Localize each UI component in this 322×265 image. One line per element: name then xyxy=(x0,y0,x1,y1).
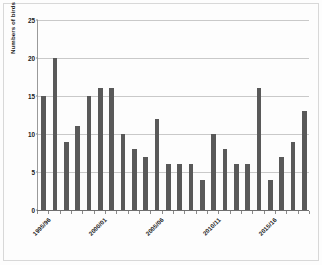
bar xyxy=(291,142,296,210)
x-tick-mark xyxy=(309,211,310,214)
bar xyxy=(302,111,307,210)
bar xyxy=(109,88,114,210)
bar xyxy=(98,88,103,210)
plot-area: 0510152025 xyxy=(37,20,309,210)
bar xyxy=(177,164,182,210)
x-tick-mark xyxy=(230,211,231,214)
x-tick-mark xyxy=(48,211,49,214)
bar xyxy=(189,164,194,210)
y-axis-title: Numbers of birds xyxy=(9,0,16,78)
x-tick-label: 2010/11 xyxy=(201,216,222,237)
x-tick-label: 2000/01 xyxy=(87,216,108,237)
bar xyxy=(87,96,92,210)
bar xyxy=(53,58,58,210)
x-tick-label: 2015/16 xyxy=(257,216,278,237)
x-tick-mark xyxy=(139,211,140,214)
x-tick-mark xyxy=(105,211,106,214)
bar xyxy=(245,164,250,210)
x-tick-label: 2005/06 xyxy=(144,216,165,237)
bar xyxy=(279,157,284,210)
bar xyxy=(155,119,160,210)
bar xyxy=(166,164,171,210)
x-tick-mark xyxy=(196,211,197,214)
x-tick-mark xyxy=(60,211,61,214)
y-tick-label: 15 xyxy=(28,93,35,100)
y-tick-label: 10 xyxy=(28,131,35,138)
bar xyxy=(143,157,148,210)
x-tick-mark xyxy=(207,211,208,214)
x-tick-mark xyxy=(275,211,276,214)
x-tick-mark xyxy=(184,211,185,214)
bar xyxy=(257,88,262,210)
bar xyxy=(223,149,228,210)
x-tick-mark xyxy=(298,211,299,214)
x-tick-mark xyxy=(82,211,83,214)
x-tick-label: 1995/96 xyxy=(31,216,52,237)
x-tick-mark xyxy=(241,211,242,214)
x-tick-mark xyxy=(162,211,163,214)
bar xyxy=(268,180,273,210)
y-axis-title-label: Numbers of birds xyxy=(9,0,16,78)
x-tick-mark xyxy=(94,211,95,214)
x-tick-mark xyxy=(264,211,265,214)
x-tick-mark xyxy=(252,211,253,214)
bars-layer xyxy=(38,20,309,210)
bar xyxy=(211,134,216,210)
x-tick-mark xyxy=(173,211,174,214)
x-tick-mark xyxy=(37,211,38,214)
y-tick-label: 20 xyxy=(28,55,35,62)
x-tick-mark xyxy=(128,211,129,214)
x-tick-mark xyxy=(286,211,287,214)
bar xyxy=(64,142,69,210)
bar xyxy=(41,96,46,210)
y-tick-label: 5 xyxy=(31,169,35,176)
y-tick-label: 25 xyxy=(28,17,35,24)
bar-chart-figure: Numbers of birds 0510152025 1995/962000/… xyxy=(0,0,322,265)
y-tick-label: 0 xyxy=(31,207,35,214)
bar xyxy=(75,126,80,210)
bar xyxy=(200,180,205,210)
bar xyxy=(234,164,239,210)
bar xyxy=(132,149,137,210)
x-tick-mark xyxy=(150,211,151,214)
x-tick-mark xyxy=(71,211,72,214)
x-tick-mark xyxy=(116,211,117,214)
bar xyxy=(121,134,126,210)
x-tick-mark xyxy=(218,211,219,214)
